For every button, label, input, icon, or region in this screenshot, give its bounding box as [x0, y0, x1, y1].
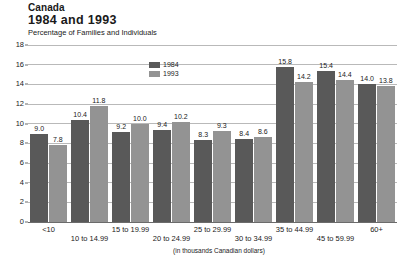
y-axis-tick-label: 12 [16, 100, 24, 108]
bar-value-label: 9.2 [116, 123, 126, 131]
bar-1993[interactable]: 14.2 [295, 82, 314, 222]
bar-1993[interactable]: 9.3 [213, 131, 232, 222]
y-axis-tick-label: 8 [20, 139, 24, 147]
legend-label: 1984 [163, 61, 179, 69]
bar-1984[interactable]: 9.4 [153, 130, 172, 222]
x-axis-caption-text: (in thousands Canadian dollars) [145, 247, 265, 254]
x-axis-tick-label: 25 to 29.99 [194, 225, 232, 234]
bar-group: 15.414.4 [315, 45, 356, 222]
y-axis-tick-label: 14 [16, 80, 24, 88]
bar-value-label: 11.8 [92, 97, 105, 105]
bar-value-label: 10.4 [73, 111, 87, 119]
legend-item[interactable]: 1984 [149, 61, 179, 69]
bar-value-label: 14.0 [360, 75, 374, 83]
x-axis-tick-label: 20 to 24.99 [153, 234, 191, 243]
x-axis-tick-label: 30 to 34.99 [235, 234, 273, 243]
legend-swatch-icon [149, 71, 160, 77]
chart-legend: 19841993 [149, 61, 179, 78]
bar-1993[interactable]: 10.0 [131, 124, 150, 222]
bar-1984[interactable]: 8.3 [194, 140, 213, 222]
bar-group: 9.210.0 [110, 45, 151, 222]
y-axis-tick-label: 6 [20, 159, 24, 167]
bar-value-label: 14.2 [297, 73, 311, 81]
bar-group: 8.39.3 [192, 45, 233, 222]
bar-group: 15.814.2 [274, 45, 315, 222]
bar-value-label: 9.3 [217, 122, 227, 130]
bar-value-label: 9.0 [34, 125, 44, 133]
legend-label: 1993 [163, 70, 179, 78]
y-axis-tick-label: 18 [16, 41, 24, 49]
bar-1984[interactable]: 14.0 [358, 84, 377, 222]
bar-group: 8.48.6 [233, 45, 274, 222]
bar-value-label: 14.4 [338, 71, 352, 79]
bar-value-label: 8.3 [198, 131, 208, 139]
x-axis-tick-label: 15 to 19.99 [112, 225, 150, 234]
y-axis-tick-label: 2 [20, 198, 24, 206]
bar-value-label: 7.8 [53, 136, 63, 144]
x-axis-caption: (in thousands Canadian dollars) [0, 247, 410, 255]
y-axis-tick-label: 0 [20, 218, 24, 226]
y-axis-tick-label: 4 [20, 179, 24, 187]
chart-title-country: Canada [28, 2, 157, 13]
bar-1993[interactable]: 13.8 [377, 86, 396, 222]
bar-1993[interactable]: 11.8 [90, 106, 109, 222]
bar-value-label: 9.4 [157, 121, 167, 129]
bar-value-label: 10.0 [133, 115, 147, 123]
bar-value-label: 13.8 [379, 77, 393, 85]
chart-subtitle: Percentage of Families and Individuals [28, 28, 157, 38]
x-axis-labels: <1010 to 14.9915 to 19.9920 to 24.9925 t… [28, 222, 397, 248]
bar-1993[interactable]: 10.2 [172, 122, 191, 222]
x-axis-tick-label: 45 to 59.99 [317, 234, 355, 243]
title-block: Canada 1984 and 1993 Percentage of Famil… [28, 2, 157, 38]
bar-value-label: 15.4 [319, 62, 333, 70]
y-axis-tick-label: 10 [16, 120, 24, 128]
x-axis-tick-label: 60+ [370, 225, 383, 234]
bar-value-label: 10.2 [174, 113, 188, 121]
x-axis-tick-label: 10 to 14.99 [71, 234, 109, 243]
x-axis-tick-label: <10 [42, 225, 55, 234]
bar-1984[interactable]: 15.4 [317, 71, 336, 222]
bar-1993[interactable]: 14.4 [336, 80, 355, 222]
bar-1984[interactable]: 15.8 [276, 67, 295, 222]
plot-area: 0246810121416189.07.810.411.89.210.09.41… [28, 45, 397, 222]
bar-1984[interactable]: 9.2 [112, 132, 131, 222]
x-axis-tick-label: 35 to 44.99 [276, 225, 314, 234]
bar-1993[interactable]: 8.6 [254, 137, 273, 222]
bar-1984[interactable]: 10.4 [71, 120, 90, 222]
bar-group: 14.013.8 [356, 45, 397, 222]
bar-value-label: 15.8 [278, 58, 292, 66]
bar-group: 10.411.8 [69, 45, 110, 222]
bar-1993[interactable]: 7.8 [49, 145, 68, 222]
chart-figure: Canada 1984 and 1993 Percentage of Famil… [0, 0, 410, 268]
bar-1984[interactable]: 9.0 [30, 134, 49, 223]
bar-value-label: 8.4 [239, 130, 249, 138]
bar-value-label: 8.6 [258, 128, 268, 136]
bar-1984[interactable]: 8.4 [235, 139, 254, 222]
bar-group: 9.07.8 [28, 45, 69, 222]
legend-item[interactable]: 1993 [149, 70, 179, 78]
y-axis-tick-label: 16 [16, 61, 24, 69]
chart-title-years: 1984 and 1993 [28, 13, 157, 27]
legend-swatch-icon [149, 62, 160, 68]
